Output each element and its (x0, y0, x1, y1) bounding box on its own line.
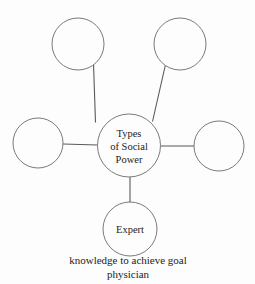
concept-map-diagram: Expert Types of Social Power knowledge t… (0, 0, 255, 284)
connector-center-to-left (63, 144, 98, 145)
top-left-node[interactable] (52, 18, 104, 70)
caption-line-2: physician (107, 268, 150, 280)
connector-center-to-top-right (153, 65, 166, 122)
bottom-node-label: Expert (116, 224, 144, 235)
caption-line-1: knowledge to achieve goal (69, 254, 187, 266)
connector-center-to-top-left (94, 64, 96, 123)
diagram-canvas: Expert Types of Social Power knowledge t… (0, 0, 255, 284)
left-node[interactable] (13, 118, 63, 168)
top-right-node[interactable] (154, 18, 206, 70)
right-node[interactable] (194, 121, 244, 171)
center-node-label-line-3: Power (116, 154, 143, 165)
center-node-label-line-1: Types (117, 128, 142, 139)
center-node-label-line-2: of Social (110, 141, 148, 152)
